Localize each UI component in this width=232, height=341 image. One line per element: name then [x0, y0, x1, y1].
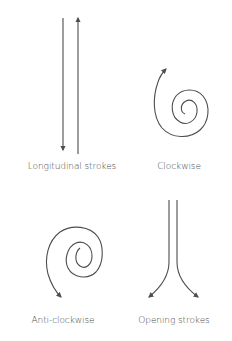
clockwise-spiral-stroke	[154, 69, 208, 137]
anticlockwise-spiral-stroke	[47, 227, 103, 297]
anticlockwise-spiral-figure	[47, 227, 103, 297]
right-opening-stroke	[177, 200, 198, 297]
clockwise-spiral-figure	[154, 69, 208, 137]
left-opening-stroke	[149, 200, 169, 297]
longitudinal-strokes-figure	[63, 18, 78, 154]
opening-strokes-label: Opening strokes	[138, 315, 209, 325]
anticlockwise-label: Anti-clockwise	[32, 315, 95, 325]
longitudinal-strokes-label: Longitudinal strokes	[28, 161, 116, 171]
opening-strokes-figure	[149, 200, 198, 297]
clockwise-label: Clockwise	[157, 161, 201, 171]
